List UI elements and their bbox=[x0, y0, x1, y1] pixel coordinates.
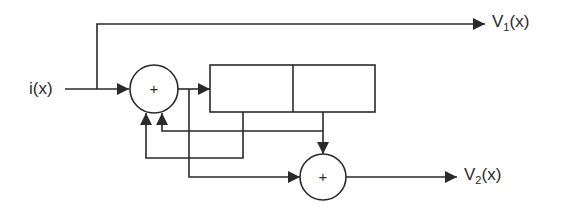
output-v2-label: V2(x) bbox=[464, 165, 501, 186]
input-label: i(x) bbox=[29, 79, 53, 99]
adder-2-symbol: + bbox=[319, 168, 328, 185]
v1-arg: (x) bbox=[509, 12, 529, 31]
adder-1-symbol: + bbox=[150, 80, 159, 97]
feedback-cell1 bbox=[146, 112, 243, 158]
output-v1-label: V1(x) bbox=[492, 12, 529, 33]
v2-arg: (x) bbox=[481, 165, 501, 184]
v1-base: V bbox=[492, 12, 503, 31]
feedforward-to-adder2 bbox=[189, 89, 300, 177]
v2-base: V bbox=[464, 165, 475, 184]
